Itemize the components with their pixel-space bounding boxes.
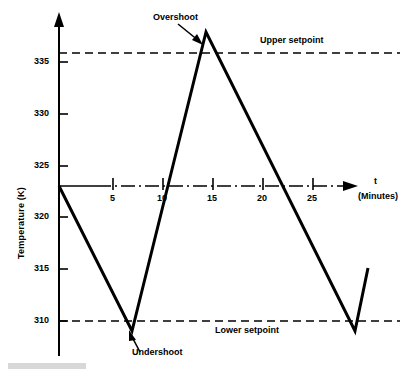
chart-figure: Temperature (K) 335 330 325 320 315 310 …	[0, 0, 412, 375]
x-tick-label-25: 25	[307, 194, 317, 203]
x-axis-units-label: (Minutes)	[358, 192, 398, 201]
overshoot-label: Overshoot	[153, 13, 198, 22]
x-axis-symbol-label: t	[374, 177, 377, 186]
y-tick-label-315: 315	[34, 264, 49, 273]
y-tick-label-330: 330	[34, 109, 49, 118]
undershoot-label: Undershoot	[132, 348, 183, 357]
y-tick-label-320: 320	[34, 212, 49, 221]
overshoot-arrow-icon	[178, 24, 203, 45]
y-tick-label-310: 310	[34, 316, 49, 325]
x-tick-label-20: 20	[257, 194, 267, 203]
x-tick-label-5: 5	[110, 194, 115, 203]
x-tick-label-15: 15	[207, 194, 217, 203]
x-tick-label-10: 10	[157, 194, 167, 203]
upper-setpoint-label: Upper setpoint	[260, 36, 324, 45]
lower-setpoint-label: Lower setpoint	[215, 326, 279, 335]
y-tick-label-335: 335	[34, 57, 49, 66]
figure-caption-fragment	[8, 363, 86, 369]
y-axis-label: Temperature (K)	[16, 171, 26, 275]
y-axis	[54, 12, 64, 356]
y-tick-label-325: 325	[34, 161, 49, 170]
chart-plot-area	[0, 0, 412, 375]
